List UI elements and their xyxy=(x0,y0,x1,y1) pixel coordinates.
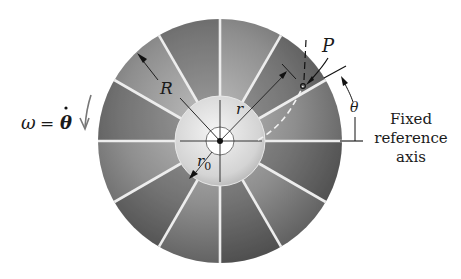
label-theta: θ xyxy=(350,99,359,115)
label-P: P xyxy=(321,35,335,56)
reference-line1: Fixed xyxy=(390,110,433,128)
reference-line3: axis xyxy=(396,148,426,166)
theta-dot-symbol: θ xyxy=(60,112,72,133)
rotating-disk-diagram: R r r0 P θ Fixed reference axis ω = xyxy=(0,0,461,279)
equals-sign: = xyxy=(40,113,54,133)
angular-velocity-label: ω = θ xyxy=(21,95,91,133)
label-R: R xyxy=(159,78,173,98)
label-r: r xyxy=(236,100,244,118)
reference-line2: reference xyxy=(374,129,448,147)
reference-axis-label: Fixed reference axis xyxy=(374,110,448,166)
dot-accent xyxy=(64,106,67,109)
omega-symbol: ω xyxy=(21,112,36,133)
arrowhead-icon xyxy=(341,76,348,86)
